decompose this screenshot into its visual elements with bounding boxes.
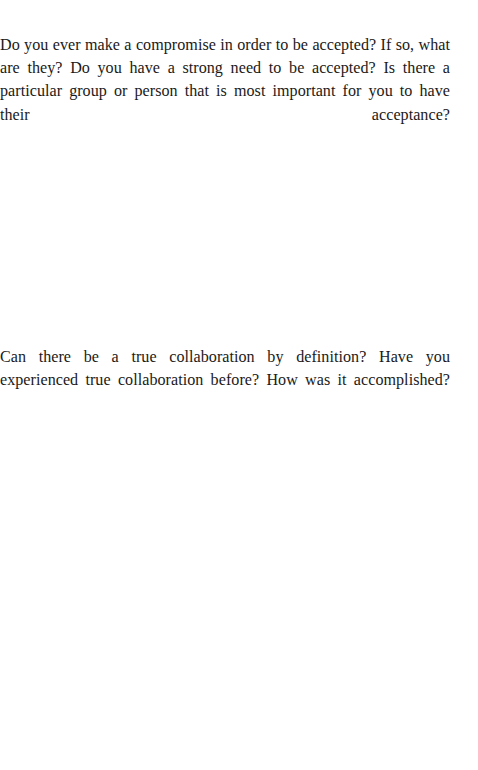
answer-space-collaboration (14, 393, 464, 763)
document-page: Do you ever make a compromise in order t… (0, 0, 478, 770)
answer-space-acceptance (14, 104, 464, 344)
